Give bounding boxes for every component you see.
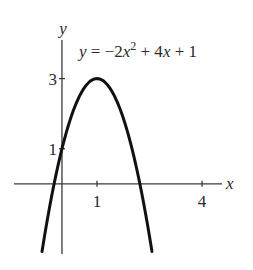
y-tick-label: 3 bbox=[48, 70, 57, 89]
y-tick-label: 1 bbox=[48, 140, 57, 159]
eq-part-coef-b: + 4 bbox=[136, 42, 163, 61]
equation-annotation: y = −2x2 + 4x + 1 bbox=[77, 39, 197, 61]
eq-part-y: y bbox=[77, 42, 87, 61]
chart: x y 1413 y = −2x2 + 4x + 1 bbox=[0, 0, 253, 270]
eq-part-const: + 1 bbox=[170, 42, 197, 61]
parabola-curve bbox=[42, 79, 152, 252]
x-tick-label: 4 bbox=[198, 192, 207, 211]
ticks: 1413 bbox=[48, 70, 206, 211]
eq-part-coef-a: = −2 bbox=[87, 42, 123, 61]
x-axis-label: x bbox=[225, 174, 234, 193]
x-tick-label: 1 bbox=[93, 192, 102, 211]
y-axis-label: y bbox=[57, 19, 67, 38]
